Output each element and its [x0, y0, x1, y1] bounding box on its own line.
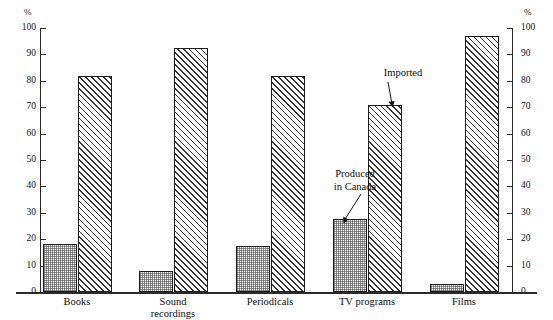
axis-tick-left-100: [41, 28, 46, 29]
axis-tick-left-90: [41, 54, 46, 55]
axis-tick-label-left-30: 30: [27, 208, 37, 218]
axis-tick-label-right-100: 100: [521, 23, 535, 33]
annotation-produced-arrow: [330, 192, 370, 232]
axis-tick-label-left-10: 10: [27, 261, 37, 271]
axis-tick-label-left-80: 80: [27, 76, 37, 86]
bar-imported-3: [368, 105, 402, 292]
axis-tick-label-left-50: 50: [27, 155, 37, 165]
annotation-produced-in-canada: Produced in Canada: [316, 168, 394, 193]
axis-tick-label-left-70: 70: [27, 102, 37, 112]
annotation-imported: Imported: [363, 67, 443, 80]
bar-produced-in-canada-4: [430, 284, 464, 292]
left-axis-unit-label: %: [24, 8, 32, 17]
axis-tick-right-100: [507, 28, 512, 29]
axis-tick-label-right-10: 10: [521, 261, 531, 271]
axis-tick-left-40: [41, 186, 46, 187]
axis-tick-label-right-70: 70: [521, 102, 531, 112]
right-axis-unit-label: %: [524, 8, 532, 17]
bar-produced-in-canada-2: [236, 246, 270, 292]
bar-imported-4: [465, 36, 499, 292]
bar-imported-1: [174, 48, 208, 292]
axis-tick-right-70: [507, 107, 512, 108]
axis-tick-right-40: [507, 186, 512, 187]
axis-tick-left-60: [41, 134, 46, 135]
axis-tick-label-right-40: 40: [521, 181, 531, 191]
axis-tick-label-right-50: 50: [521, 155, 531, 165]
axis-tick-left-70: [41, 107, 46, 108]
axis-tick-label-right-20: 20: [521, 234, 531, 244]
bar-produced-in-canada-0: [43, 244, 77, 292]
axis-tick-label-left-100: 100: [22, 23, 36, 33]
bar-produced-in-canada-1: [139, 271, 173, 292]
axis-tick-right-50: [507, 160, 512, 161]
axis-tick-right-80: [507, 81, 512, 82]
axis-tick-label-right-90: 90: [521, 49, 531, 59]
axis-tick-right-10: [507, 266, 512, 267]
axis-tick-left-50: [41, 160, 46, 161]
axis-tick-right-90: [507, 54, 512, 55]
bar-imported-2: [271, 76, 305, 292]
axis-tick-label-left-20: 20: [27, 234, 37, 244]
right-axis-line: [512, 28, 513, 292]
axis-tick-label-left-60: 60: [27, 129, 37, 139]
axis-tick-right-20: [507, 239, 512, 240]
axis-tick-label-right-80: 80: [521, 76, 531, 86]
axis-tick-label-left-40: 40: [27, 181, 37, 191]
axis-tick-left-20: [41, 239, 46, 240]
axis-tick-label-right-30: 30: [521, 208, 531, 218]
x-axis-baseline: [16, 292, 537, 294]
axis-tick-left-30: [41, 213, 46, 214]
category-label-4: Films: [404, 296, 524, 308]
axis-tick-right-60: [507, 134, 512, 135]
axis-tick-right-30: [507, 213, 512, 214]
annotation-imported-arrow: [378, 80, 408, 112]
bar-imported-0: [78, 76, 112, 292]
axis-tick-left-80: [41, 81, 46, 82]
axis-tick-label-left-90: 90: [27, 49, 37, 59]
axis-tick-label-right-60: 60: [521, 129, 531, 139]
